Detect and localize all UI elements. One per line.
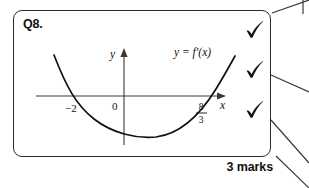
check-icon (243, 99, 269, 121)
y-axis-label: y (109, 48, 116, 61)
tick-1 (243, 19, 269, 41)
x-axis (36, 92, 226, 99)
check-icon (243, 19, 269, 41)
fraction-numerator: 8 (199, 102, 204, 112)
tick-3 (243, 99, 269, 121)
tick-2 (243, 59, 269, 81)
marks-label: 3 marks (226, 160, 273, 174)
fraction-denominator: 3 (199, 115, 204, 125)
origin-label: 0 (112, 100, 118, 112)
screenshot-page: Q8. y = f′(x) (0, 0, 309, 188)
tick-marks-column (243, 14, 269, 126)
graph-figure: y = f′(x) y x 0 −2 8 3 (32, 33, 257, 153)
check-icon (243, 59, 269, 81)
x-axis-label: x (219, 99, 226, 111)
left-intercept-label: −2 (65, 102, 77, 114)
curve-label: y = f′(x) (173, 46, 211, 59)
parabola-plot: y = f′(x) y x 0 −2 8 3 (32, 33, 257, 153)
question-box: Q8. y = f′(x) (13, 10, 271, 157)
question-number-label: Q8. (23, 17, 43, 31)
